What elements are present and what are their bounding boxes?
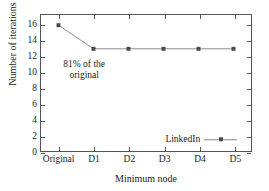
y-tick-mark bbox=[41, 73, 45, 74]
y-tick-label: 14 bbox=[28, 37, 38, 47]
y-tick-label: 6 bbox=[32, 100, 37, 110]
x-tick-label: D5 bbox=[230, 155, 242, 165]
series-line-linkedin bbox=[59, 25, 234, 49]
legend-item-linkedin-sample bbox=[204, 136, 237, 143]
annotation-81-percent: 81% of the original bbox=[63, 59, 105, 81]
y-tick-mark bbox=[41, 41, 45, 42]
x-tick-label: Original bbox=[43, 155, 75, 165]
data-point-marker bbox=[232, 47, 236, 51]
y-tick-mark bbox=[247, 73, 251, 74]
y-tick-label: 4 bbox=[32, 116, 37, 126]
x-tick-mark bbox=[165, 15, 166, 19]
x-tick-mark bbox=[94, 15, 95, 19]
y-tick-mark bbox=[247, 153, 251, 154]
legend-marker-icon bbox=[219, 138, 223, 142]
y-tick-mark bbox=[247, 41, 251, 42]
y-tick-mark bbox=[41, 89, 45, 90]
chart-figure: 0246810121416OriginalD1D2D3D4D5 81% of t… bbox=[0, 0, 269, 191]
data-point-marker bbox=[57, 23, 61, 27]
x-tick-mark bbox=[59, 147, 60, 151]
y-tick-label: 2 bbox=[32, 132, 37, 142]
y-axis-title: Number of iterations bbox=[8, 0, 18, 104]
y-tick-label: 12 bbox=[28, 53, 38, 63]
series-layer bbox=[41, 15, 251, 151]
chart-legend: LinkedIn bbox=[165, 135, 237, 145]
data-point-marker bbox=[127, 47, 131, 51]
annotation-line-1: 81% of the bbox=[63, 59, 105, 70]
x-tick-mark bbox=[200, 147, 201, 151]
y-tick-mark bbox=[41, 105, 45, 106]
y-tick-label: 8 bbox=[32, 84, 37, 94]
y-tick-mark bbox=[247, 105, 251, 106]
x-tick-label: D1 bbox=[88, 155, 100, 165]
x-axis-title: Minimum node bbox=[40, 174, 252, 184]
y-tick-mark bbox=[247, 25, 251, 26]
x-tick-mark bbox=[235, 147, 236, 151]
data-point-marker bbox=[162, 47, 166, 51]
x-tick-mark bbox=[94, 147, 95, 151]
annotation-line-2: original bbox=[63, 70, 105, 81]
y-tick-mark bbox=[247, 137, 251, 138]
y-tick-mark bbox=[41, 57, 45, 58]
y-tick-mark bbox=[41, 121, 45, 122]
y-tick-mark bbox=[41, 25, 45, 26]
legend-item-linkedin-label: LinkedIn bbox=[165, 135, 200, 145]
x-tick-mark bbox=[235, 15, 236, 19]
data-point-marker bbox=[197, 47, 201, 51]
y-tick-mark bbox=[41, 137, 45, 138]
y-tick-mark bbox=[247, 57, 251, 58]
x-tick-mark bbox=[59, 15, 60, 19]
data-point-marker bbox=[92, 47, 96, 51]
x-tick-label: D3 bbox=[159, 155, 171, 165]
x-tick-mark bbox=[200, 15, 201, 19]
y-tick-label: 0 bbox=[32, 148, 37, 158]
y-tick-label: 16 bbox=[28, 21, 38, 31]
y-tick-mark bbox=[247, 89, 251, 90]
x-tick-mark bbox=[129, 15, 130, 19]
x-tick-mark bbox=[165, 147, 166, 151]
x-tick-label: D2 bbox=[124, 155, 136, 165]
y-tick-mark bbox=[247, 121, 251, 122]
plot-area: 0246810121416OriginalD1D2D3D4D5 bbox=[40, 14, 252, 152]
x-tick-label: D4 bbox=[194, 155, 206, 165]
x-tick-mark bbox=[129, 147, 130, 151]
y-tick-label: 10 bbox=[28, 68, 38, 78]
